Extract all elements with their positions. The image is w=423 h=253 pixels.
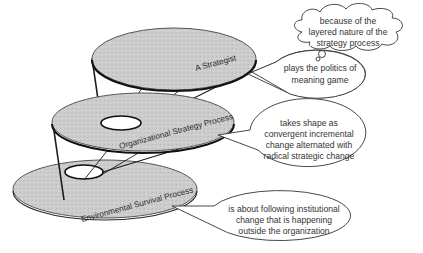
disc-environmental-survival-process: Environmental Survival Process [13,160,197,224]
layered-strategy-diagram: Environmental Survival Process Organizat… [0,0,423,253]
callout-text-line: plays the politics of [284,63,357,73]
callout-environmental-survival-process: is about following institutional change … [172,191,351,241]
callout-text-line: radical strategic change [264,151,355,161]
cloud-text-line: strategy process [316,38,379,48]
callout-organizational-strategy-process: takes shape as convergent incremental ch… [218,99,366,167]
callout-text-line: is about following institutional [228,204,339,214]
disc-a-strategist: A Strategist [92,28,256,91]
thought-bubble-small [319,51,326,58]
cloud-text-line: layered nature of the [309,27,388,37]
callout-text-line: takes shape as [280,118,338,128]
callout-text-line: convergent incremental [264,129,353,139]
cloud-text-line: because of the [320,16,377,26]
callout-a-strategist: plays the politics of meaning game [248,50,366,98]
callout-text-line: change that is happening [236,215,332,225]
callout-text-line: outside the organization [238,226,329,236]
callout-text-line: meaning game [292,75,349,85]
thought-bubble-tiny [316,57,320,61]
callout-text-line: change alternated with [266,140,353,150]
disc-organizational-strategy-process: Organizational Strategy Process [52,93,234,153]
disc-hole-middle [101,116,141,130]
